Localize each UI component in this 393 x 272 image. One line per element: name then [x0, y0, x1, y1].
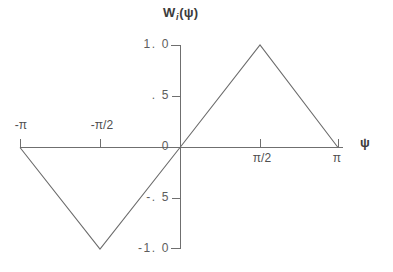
- y-tick-label-0: 0: [124, 140, 170, 152]
- chart-title: Wi(ψ): [163, 6, 198, 22]
- chart-title-base: W: [163, 5, 175, 20]
- plot-canvas: [0, 0, 393, 272]
- x-axis-label: ψ: [360, 136, 370, 149]
- chart-page: Wi(ψ) 1. 0 . 5 0 -. 5 -1. 0 -π -π/2 π/2 …: [0, 0, 393, 272]
- y-tick-label-1: 1. 0: [124, 38, 170, 50]
- x-tick-label-half-pi: π/2: [240, 152, 284, 164]
- y-tick-label-05: . 5: [124, 89, 170, 101]
- x-tick-label-neg-half-pi: -π/2: [80, 119, 124, 131]
- x-tick-label-pi: π: [324, 152, 350, 164]
- chart-title-arg: (ψ): [179, 5, 198, 20]
- x-tick-label-neg-pi: -π: [6, 119, 36, 131]
- y-tick-label-neg05: -. 5: [124, 191, 170, 203]
- y-tick-label-neg1: -1. 0: [124, 242, 170, 254]
